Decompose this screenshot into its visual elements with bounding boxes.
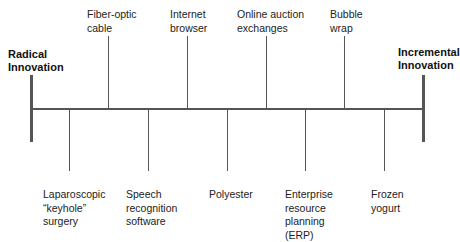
label-bubble-wrap: Bubble wrap — [330, 8, 363, 35]
tick-online-auction — [266, 36, 267, 108]
label-fiber-optic-cable: Fiber-optic cable — [87, 8, 137, 35]
label-speech-recognition-software: Speech recognition software — [126, 188, 177, 229]
tick-laparoscopic — [69, 110, 70, 171]
radical-innovation-label: Radical Innovation — [8, 48, 64, 74]
label-laparoscopic-surgery: Laparoscopic “keyhole” surgery — [43, 188, 105, 229]
tick-bubble-wrap — [344, 36, 345, 108]
incremental-innovation-label: Incremental Innovation — [398, 46, 460, 72]
tick-fiber-optic — [108, 36, 109, 108]
label-enterprise-resource-planning: Enterprise resource planning (ERP) — [285, 188, 333, 242]
label-online-auction-exchanges: Online auction exchanges — [237, 8, 304, 35]
tick-speech-recognition — [148, 110, 149, 171]
tick-frozen-yogurt — [384, 110, 385, 171]
label-internet-browser: Internet browser — [170, 8, 207, 35]
tick-erp — [305, 110, 306, 171]
tick-polyester — [227, 110, 228, 171]
tick-internet-browser — [187, 36, 188, 108]
label-polyester: Polyester — [209, 188, 253, 202]
label-frozen-yogurt: Frozen yogurt — [371, 188, 404, 215]
